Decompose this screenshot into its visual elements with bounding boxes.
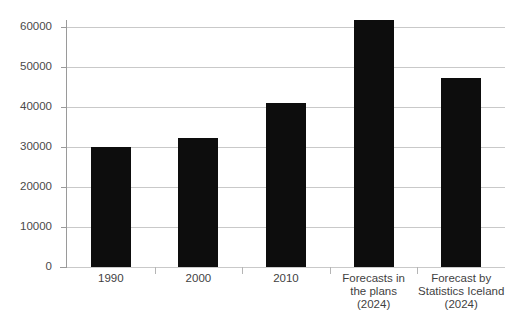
y-axis-tick-label: 0 (0, 261, 62, 273)
bar[interactable] (91, 147, 131, 267)
plot-area (67, 27, 505, 267)
y-axis-tick-label: 50000 (0, 61, 62, 73)
bar[interactable] (266, 103, 306, 267)
y-axis-tick-label: 30000 (0, 141, 62, 153)
category-separator-tick (155, 267, 156, 274)
bar[interactable] (354, 20, 394, 267)
category-separator-tick (242, 267, 243, 274)
x-axis-tick-label: 2000 (155, 272, 243, 285)
gridline (67, 267, 505, 268)
y-axis-tick-label: 60000 (0, 21, 62, 33)
y-axis-tick-label: 40000 (0, 101, 62, 113)
y-axis-tick-label: 10000 (0, 221, 62, 233)
y-axis-tick-label: 20000 (0, 181, 62, 193)
x-axis-tick-label: 1990 (67, 272, 155, 285)
x-axis-tick-label: Forecast by Statistics Iceland (2024) (417, 272, 505, 311)
bar-chart: 0100002000030000400005000060000 19902000… (0, 0, 512, 322)
y-axis-tick-mark (61, 267, 67, 268)
gridline (67, 67, 505, 68)
category-separator-tick (417, 267, 418, 274)
bar[interactable] (441, 78, 481, 267)
y-axis-tick-mark (61, 187, 67, 188)
y-axis-tick-mark (61, 227, 67, 228)
gridline (67, 27, 505, 28)
y-axis-tick-mark (61, 67, 67, 68)
category-separator-tick (330, 267, 331, 274)
x-axis-tick-label: 2010 (242, 272, 330, 285)
y-axis-tick-mark (61, 107, 67, 108)
y-axis-tick-mark (61, 27, 67, 28)
x-axis-tick-label: Forecasts in the plans (2024) (330, 272, 418, 311)
bar[interactable] (178, 138, 218, 267)
y-axis-labels: 0100002000030000400005000060000 (0, 0, 62, 322)
y-axis-tick-mark (61, 147, 67, 148)
x-axis-labels: 199020002010Forecasts in the plans (2024… (67, 272, 505, 322)
